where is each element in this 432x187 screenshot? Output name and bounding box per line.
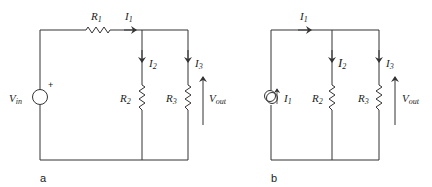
label-i2: I2 — [337, 55, 346, 71]
label-i2: I2 — [148, 57, 157, 71]
resistor-r3 — [376, 85, 382, 110]
label-i1-source: I1 — [283, 92, 292, 106]
label-i3: I3 — [385, 57, 394, 71]
resistor-r2 — [329, 85, 335, 110]
circuit-figure: R1 I1 I2 I3 R2 R3 Vout Vin + a I1 I2 I3 — [0, 0, 432, 187]
label-r2: R2 — [119, 92, 131, 106]
label-vout-a: Vout — [209, 92, 227, 106]
resistor-r1 — [86, 27, 110, 33]
resistor-r2 — [139, 85, 145, 110]
label-vout-b: Vout — [402, 92, 420, 106]
current-source-icon — [265, 89, 278, 104]
label-r3: R3 — [357, 92, 369, 106]
label-r1: R1 — [90, 10, 102, 24]
label-i1: I1 — [124, 10, 133, 24]
polarity-plus: + — [48, 80, 53, 90]
caption-b: b — [271, 172, 277, 184]
circuit-b: I1 I2 I3 I1 R2 R3 Vout b — [265, 10, 420, 184]
label-i1-top: I1 — [299, 10, 308, 24]
voltage-source-icon — [33, 90, 48, 105]
resistor-r3 — [185, 85, 191, 110]
label-vin: Vin — [9, 92, 22, 106]
caption-a: a — [40, 172, 47, 184]
label-i3: I3 — [194, 57, 203, 71]
label-r2: R2 — [311, 92, 323, 106]
circuit-a: R1 I1 I2 I3 R2 R3 Vout Vin + a — [9, 10, 227, 184]
label-r3: R3 — [165, 92, 177, 106]
